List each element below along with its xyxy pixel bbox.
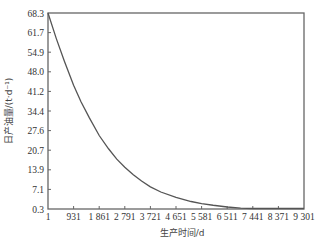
x-tick-label: 9 301 [293, 212, 315, 222]
y-tick-label: 61.7 [27, 28, 44, 38]
y-tick-label: 0.3 [32, 205, 44, 215]
x-tick-label: 4 651 [165, 212, 187, 222]
x-tick-label: 6 511 [217, 212, 238, 222]
y-tick-label: 13.9 [27, 165, 44, 175]
y-tick-label: 54.9 [27, 48, 44, 58]
y-tick-label: 7.1 [32, 185, 44, 195]
x-tick-label: 8 371 [268, 212, 290, 222]
x-tick-label: 2 791 [114, 212, 136, 222]
x-tick-label: 1 861 [89, 212, 111, 222]
y-tick-label: 20.7 [27, 146, 44, 156]
x-axis-title: 生产时间/d [160, 227, 205, 238]
y-tick-label: 41.2 [27, 87, 44, 97]
x-tick-label: 3 721 [140, 212, 162, 222]
y-tick-label: 34.4 [27, 107, 44, 117]
y-tick-label: 27.6 [27, 126, 44, 136]
oil-production-curve [48, 13, 304, 209]
y-axis-title: 日产油量/(t·d⁻¹) [3, 78, 14, 145]
x-tick-label: 5 581 [191, 212, 213, 222]
decline-curve-chart: 19311 8612 7913 7214 6515 5816 5117 4418… [0, 0, 326, 246]
y-tick-label: 48.0 [27, 67, 44, 77]
x-tick-label: 7 441 [242, 212, 264, 222]
x-tick-label: 1 [46, 212, 51, 222]
x-tick-label: 931 [66, 212, 81, 222]
y-tick-label: 68.3 [27, 9, 44, 19]
